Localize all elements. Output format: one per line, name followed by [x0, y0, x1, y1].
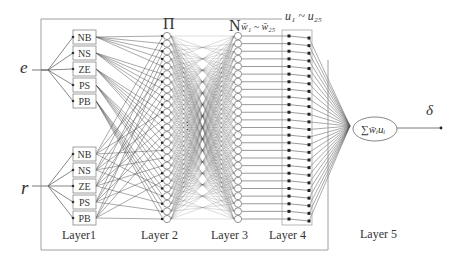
membership-label: PB	[78, 213, 91, 224]
rule-node	[163, 78, 170, 85]
rule-node	[163, 185, 170, 192]
normalization-node	[234, 116, 241, 123]
normalization-node	[234, 200, 241, 207]
normalization-node	[234, 215, 241, 222]
weights-label: w̄₁ ~ w̄₂₅	[241, 21, 276, 32]
fuzzy-neural-network-diagram: erΠNw̄₁ ~ w̄₂₅u₁ ~ u₂₅⋮Layer1Layer 2Laye…	[0, 0, 475, 259]
layer5-label: Layer 5	[360, 227, 397, 241]
rule-node	[163, 32, 170, 39]
normalization-node	[234, 101, 241, 108]
rule-node	[163, 55, 170, 62]
rule-node	[163, 139, 170, 146]
rule-node	[163, 63, 170, 70]
normalize-symbol: N	[229, 17, 241, 34]
layer2-label: Layer 2	[141, 228, 178, 242]
normalization-node	[234, 55, 241, 62]
normalization-node	[234, 193, 241, 200]
normalization-node	[234, 139, 241, 146]
outputs-label: u₁ ~ u₂₅	[285, 9, 322, 23]
rule-node	[163, 193, 170, 200]
rule-node	[163, 40, 170, 47]
rule-node	[163, 93, 170, 100]
rule-node	[163, 215, 170, 222]
layer2-ellipsis: ⋮	[182, 120, 193, 132]
normalization-node	[234, 93, 241, 100]
normalization-node	[234, 78, 241, 85]
normalization-node	[234, 170, 241, 177]
normalization-node	[234, 63, 241, 70]
membership-label: ZE	[78, 64, 90, 75]
rule-node	[163, 154, 170, 161]
rule-node	[163, 109, 170, 116]
rule-node	[163, 116, 170, 123]
rule-node	[163, 71, 170, 78]
normalization-node	[234, 147, 241, 154]
rule-node	[163, 170, 170, 177]
membership-label: PS	[79, 197, 90, 208]
rule-node	[163, 147, 170, 154]
membership-label: NS	[78, 165, 91, 176]
membership-label: ZE	[78, 181, 90, 192]
membership-label: NB	[78, 32, 92, 43]
rule-node	[163, 200, 170, 207]
normalization-node	[234, 124, 241, 131]
layer3-label: Layer 3	[211, 228, 248, 242]
input-e-label: e	[20, 58, 28, 77]
rule-node	[163, 48, 170, 55]
input-r-label: r	[21, 177, 29, 198]
normalization-node	[234, 177, 241, 184]
normalization-node	[234, 185, 241, 192]
normalization-node	[234, 40, 241, 47]
output-node-label: ∑w̄ᵢuᵢ	[361, 123, 385, 136]
normalization-node	[234, 132, 241, 139]
membership-label: PS	[79, 80, 90, 91]
layer1-label: Layer1	[62, 228, 96, 242]
normalization-node	[234, 71, 241, 78]
output-delta-label: δ	[426, 102, 434, 118]
normalization-node	[234, 208, 241, 215]
product-symbol: Π	[163, 15, 175, 32]
network-canvas: erΠNw̄₁ ~ w̄₂₅u₁ ~ u₂₅⋮Layer1Layer 2Laye…	[0, 0, 475, 259]
membership-label: NB	[78, 149, 92, 160]
rule-node	[163, 124, 170, 131]
normalization-node	[234, 154, 241, 161]
normalization-node	[234, 109, 241, 116]
normalization-node	[234, 48, 241, 55]
rule-node	[163, 177, 170, 184]
rule-node	[163, 132, 170, 139]
layer4-label: Layer 4	[269, 228, 306, 242]
membership-label: PB	[78, 96, 91, 107]
rule-node	[163, 101, 170, 108]
membership-label: NS	[78, 48, 91, 59]
rule-node	[163, 162, 170, 169]
normalization-node	[234, 162, 241, 169]
rule-node	[163, 208, 170, 215]
normalization-node	[234, 86, 241, 93]
rule-node	[163, 86, 170, 93]
